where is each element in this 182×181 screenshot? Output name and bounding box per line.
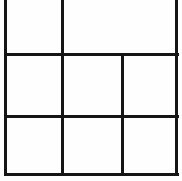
cell-r3-c3 bbox=[122, 116, 176, 174]
cell-r2-c3 bbox=[122, 54, 176, 116]
cell-r2-c2 bbox=[62, 54, 122, 116]
table-grid-image bbox=[0, 0, 182, 181]
cell-r1-c1 bbox=[5, 0, 62, 54]
cell-r1-c2 bbox=[62, 0, 176, 54]
cell-r3-c1 bbox=[5, 116, 62, 174]
cell-r2-c1 bbox=[5, 54, 62, 116]
cell-r3-c2 bbox=[62, 116, 122, 174]
